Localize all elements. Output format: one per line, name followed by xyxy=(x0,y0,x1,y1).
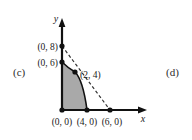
point-label-4-0: (4, 0) xyxy=(77,117,98,128)
point-marker-4-0 xyxy=(84,107,89,112)
point-marker-2-4 xyxy=(72,69,77,74)
x-axis-label: x xyxy=(140,113,146,124)
point-label-2-4: (2, 4) xyxy=(80,70,101,81)
coordinate-plane-diagram: y x (0, 8) (0, 6) (2, 4) (0, 0) (4, 0) (… xyxy=(0,0,192,140)
point-label-0-0: (0, 0) xyxy=(52,117,73,128)
point-marker-0-8 xyxy=(59,43,64,48)
point-marker-0-0 xyxy=(59,107,64,112)
point-marker-6-0 xyxy=(107,107,112,112)
point-label-0-8: (0, 8) xyxy=(37,42,58,53)
point-label-6-0: (6, 0) xyxy=(102,117,123,128)
point-label-0-6: (0, 6) xyxy=(37,58,58,69)
y-axis-label: y xyxy=(53,13,59,24)
point-marker-0-6 xyxy=(59,59,64,64)
y-axis-arrow-icon xyxy=(59,18,66,27)
